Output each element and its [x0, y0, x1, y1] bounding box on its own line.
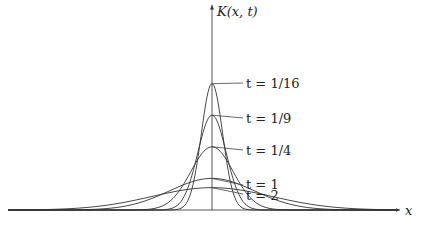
leader-line — [212, 178, 243, 185]
curve-t-1-16 — [8, 84, 396, 210]
label-t-1-4: t = 1/4 — [246, 143, 291, 158]
leader-line — [212, 115, 243, 118]
label-t-1-16: t = 1/16 — [246, 76, 300, 91]
label-t-1-9: t = 1/9 — [246, 111, 291, 126]
heat-kernel-chart: K(x, t) x t = 1/16 t = 1/9 t = 1/4 t = 1… — [0, 0, 436, 231]
leader-line — [212, 83, 243, 84]
label-t-2: t = 2 — [246, 188, 279, 203]
curve-t-2 — [8, 188, 396, 210]
curves-group — [8, 84, 396, 210]
curve-t-1-4 — [8, 147, 396, 210]
leader-lines — [212, 83, 243, 194]
x-axis-label: x — [405, 203, 413, 218]
y-axis-label: K(x, t) — [216, 4, 258, 19]
curve-t-1 — [8, 178, 396, 210]
